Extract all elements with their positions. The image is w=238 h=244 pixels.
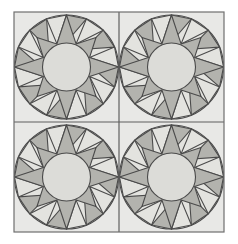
geometric-pattern-figure: Geometric tile pattern Two-by-two grid o… [0,0,238,244]
tile-bottom-left [15,125,119,229]
tile-top-left [15,15,119,119]
medallion-inner-circle [43,153,91,201]
tile-bottom-right [120,125,224,229]
medallion-inner-circle [43,43,91,91]
medallion-inner-circle [148,153,196,201]
medallion-inner-circle [148,43,196,91]
pattern-canvas: Geometric tile pattern Two-by-two grid o… [0,0,238,244]
tile-top-right [120,15,224,119]
